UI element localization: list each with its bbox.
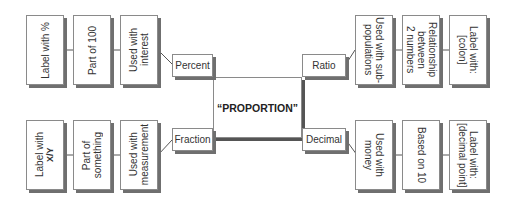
fraction-box: Fraction bbox=[172, 128, 213, 151]
fraction-attr-part-of-something: Part of something bbox=[73, 120, 111, 190]
fraction-symbol: X/Y bbox=[45, 148, 56, 163]
proportion-center-box: “PROPORTION” bbox=[213, 77, 302, 138]
ratio-attr-label-colon: Label with: [colon] bbox=[449, 15, 487, 85]
fraction-attr-used-with-measurement: Used with measurement bbox=[120, 120, 158, 190]
ratio-box: Ratio bbox=[302, 54, 346, 77]
fraction-attr-label-with-xy: Label with X/Y bbox=[26, 120, 64, 190]
fraction-label: Fraction bbox=[174, 134, 210, 145]
decimal-attr-based-on-10: Based on 10 bbox=[402, 120, 440, 190]
decimal-attr-used-with-money: Used with money bbox=[355, 120, 393, 190]
percent-label: Percent bbox=[175, 60, 209, 71]
ratio-attr-relationship: Relationship between 2 numbers bbox=[402, 15, 440, 85]
percent-attr-used-with-interest: Used with interest bbox=[120, 15, 158, 85]
ratio-label: Ratio bbox=[312, 60, 335, 71]
decimal-attr-label-decimal-point: Label with: [decimal point] bbox=[449, 120, 487, 190]
decimal-box: Decimal bbox=[302, 128, 346, 151]
percent-attr-label-with-percent: Label with % bbox=[26, 15, 64, 85]
percent-box: Percent bbox=[172, 54, 213, 77]
percent-attr-part-of-100: Part of 100 bbox=[73, 15, 111, 85]
ratio-attr-sub-populations: Used with sub- populations bbox=[355, 15, 393, 85]
proportion-label: “PROPORTION” bbox=[217, 102, 298, 114]
decimal-label: Decimal bbox=[306, 134, 342, 145]
